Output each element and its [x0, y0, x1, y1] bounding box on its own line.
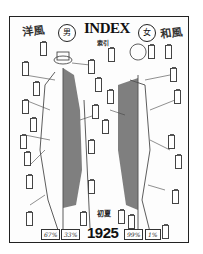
- annotation-tag: [80, 212, 87, 226]
- annotation-tag: [172, 190, 179, 204]
- annotation-tag: [24, 152, 31, 166]
- annotation-tag: [170, 68, 177, 82]
- male-japanese-percent: 33%: [61, 229, 80, 240]
- annotation-tag: [26, 212, 33, 226]
- annotation-tag: [148, 45, 155, 59]
- annotation-tag: [88, 180, 95, 194]
- annotation-tag: [128, 215, 135, 229]
- annotation-tag: [175, 155, 182, 169]
- annotation-tag: [165, 45, 172, 59]
- annotation-tag: [174, 90, 181, 104]
- annotation-tag: [108, 48, 115, 62]
- annotation-tag: [40, 42, 47, 56]
- annotation-tag: [162, 225, 169, 239]
- annotation-tag: [33, 82, 40, 96]
- annotation-tag: [88, 60, 95, 74]
- annotation-tag: [20, 135, 27, 149]
- annotation-tag: [88, 140, 95, 154]
- annotation-tag: [30, 118, 37, 132]
- annotation-tag: [168, 135, 175, 149]
- season-label: 初夏: [97, 208, 111, 218]
- annotation-tag: [118, 210, 125, 224]
- annotation-tag: [107, 90, 114, 104]
- annotation-tag: [92, 105, 99, 119]
- annotation-tag: [102, 120, 109, 134]
- annotation-tag: [26, 175, 33, 189]
- female-western-percent: 1%: [145, 229, 161, 240]
- annotation-tag: [22, 100, 29, 114]
- female-japanese-percent: 99%: [124, 229, 143, 240]
- annotation-tag: [95, 78, 102, 92]
- male-western-percent: 67%: [41, 229, 60, 240]
- year-label: 1925: [87, 224, 118, 241]
- annotation-tag: [22, 62, 29, 76]
